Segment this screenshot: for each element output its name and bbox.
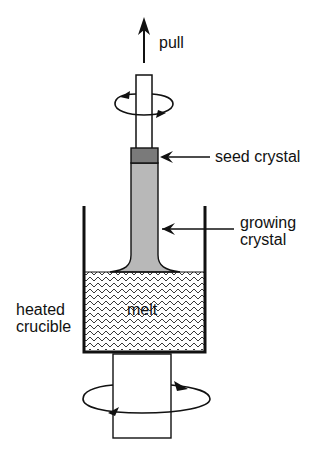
pull-rod [136, 75, 152, 149]
growing-crystal-label-line2: crystal [240, 231, 286, 248]
pull-arrow-icon [138, 17, 150, 63]
growing-crystal [110, 163, 180, 272]
growing-crystal-label-line1: growing [240, 214, 296, 231]
pull-label: pull [159, 34, 184, 51]
seed-crystal-arrow-icon [160, 151, 210, 163]
pedestal [113, 354, 171, 438]
heated-crucible-label-line1: heated [16, 301, 65, 318]
seed-crystal-label: seed crystal [215, 148, 300, 165]
seed-crystal [131, 148, 158, 163]
heated-crucible-label-line2: crucible [16, 318, 71, 335]
melt-label: melt [127, 301, 157, 318]
growing-crystal-arrow-icon [162, 223, 234, 235]
